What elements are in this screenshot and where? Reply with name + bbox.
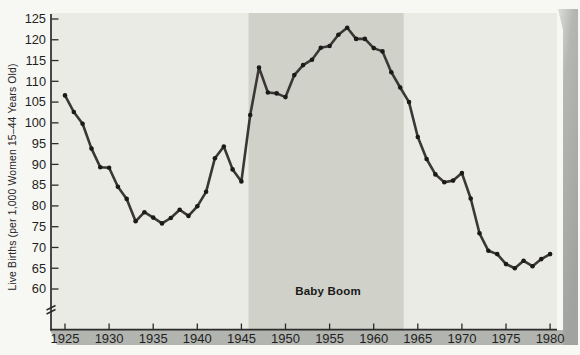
- data-point-1938: [177, 207, 182, 212]
- data-point-1967: [433, 172, 438, 177]
- data-point-1941: [204, 190, 209, 195]
- data-point-1972: [477, 231, 482, 236]
- data-point-1956: [336, 33, 341, 38]
- y-tick-label-100: 100: [25, 115, 46, 130]
- data-point-1976: [513, 266, 518, 271]
- data-point-1935: [151, 215, 156, 220]
- data-point-1929: [98, 165, 103, 170]
- data-point-1932: [124, 197, 129, 202]
- data-point-1962: [389, 70, 394, 75]
- data-point-1970: [460, 171, 465, 176]
- data-point-1928: [89, 146, 94, 151]
- x-tick-label-1965: 1965: [403, 331, 432, 346]
- data-point-1945: [239, 179, 244, 184]
- y-tick-label-95: 95: [32, 136, 46, 151]
- data-point-1966: [424, 157, 429, 162]
- data-point-1931: [116, 185, 121, 190]
- data-point-1973: [486, 249, 491, 254]
- x-tick-label-1960: 1960: [359, 331, 388, 346]
- x-axis-strip: [50, 330, 563, 345]
- data-point-1960: [371, 46, 376, 51]
- data-point-1949: [274, 91, 279, 96]
- x-tick-label-1980: 1980: [536, 331, 565, 346]
- data-point-1963: [398, 85, 403, 90]
- y-tick-label-105: 105: [25, 94, 46, 109]
- data-point-1978: [530, 264, 535, 269]
- data-point-1947: [257, 65, 262, 70]
- data-point-1943: [222, 144, 227, 149]
- fertility-rate-chart: 6065707580859095100105110115120125 19251…: [0, 0, 580, 355]
- y-tick-label-60: 60: [32, 281, 46, 296]
- data-point-1954: [319, 45, 324, 50]
- y-tick-label-65: 65: [32, 261, 46, 276]
- data-point-1957: [345, 25, 350, 30]
- data-point-1934: [142, 210, 147, 215]
- data-point-1959: [363, 37, 368, 42]
- y-tick-label-85: 85: [32, 177, 46, 192]
- data-point-1953: [310, 57, 315, 62]
- y-axis-title: Live Births (per 1,000 Women 15–44 Years…: [6, 61, 20, 293]
- baby-boom-band: [249, 13, 404, 330]
- data-point-1926: [72, 110, 77, 115]
- y-tick-label-110: 110: [26, 74, 46, 89]
- data-point-1952: [301, 63, 306, 68]
- data-point-1979: [539, 257, 544, 262]
- data-point-1958: [354, 37, 359, 42]
- data-point-1980: [548, 252, 553, 257]
- x-tick-label-1940: 1940: [183, 331, 212, 346]
- baby-boom-label: Baby Boom: [288, 285, 368, 298]
- data-point-1946: [248, 113, 253, 118]
- data-point-1955: [327, 44, 332, 49]
- data-point-1974: [495, 252, 500, 257]
- y-tick-label-120: 120: [25, 32, 46, 47]
- data-point-1925: [63, 93, 68, 98]
- data-point-1951: [292, 73, 297, 78]
- data-point-1968: [442, 180, 447, 185]
- y-tick-label-75: 75: [32, 219, 46, 234]
- data-point-1939: [186, 214, 191, 219]
- x-tick-label-1950: 1950: [271, 331, 300, 346]
- data-point-1942: [213, 156, 218, 161]
- figure-page: 6065707580859095100105110115120125 19251…: [0, 0, 580, 355]
- data-point-1937: [169, 216, 174, 221]
- data-point-1950: [283, 95, 288, 100]
- page-edge-shadow: [558, 9, 578, 345]
- data-point-1977: [521, 259, 526, 264]
- y-tick-label-80: 80: [32, 198, 46, 213]
- data-point-1930: [107, 165, 112, 170]
- data-point-1940: [195, 204, 200, 209]
- x-tick-label-1935: 1935: [139, 331, 168, 346]
- data-point-1971: [468, 196, 473, 201]
- x-tick-label-1945: 1945: [227, 331, 256, 346]
- data-point-1961: [380, 49, 385, 54]
- data-point-1965: [416, 135, 421, 140]
- x-tick-label-1970: 1970: [447, 331, 476, 346]
- data-point-1969: [451, 178, 456, 183]
- data-point-1927: [80, 121, 85, 126]
- data-point-1933: [133, 219, 138, 224]
- x-tick-label-1975: 1975: [492, 331, 521, 346]
- x-tick-label-1925: 1925: [51, 331, 80, 346]
- y-tick-label-70: 70: [32, 240, 46, 255]
- y-tick-label-115: 115: [26, 53, 46, 68]
- data-point-1948: [266, 90, 271, 95]
- data-point-1936: [160, 221, 165, 226]
- y-tick-label-125: 125: [25, 11, 46, 26]
- y-tick-label-90: 90: [32, 157, 46, 172]
- data-point-1975: [504, 262, 509, 267]
- x-tick-label-1955: 1955: [315, 331, 344, 346]
- data-point-1964: [407, 100, 412, 105]
- data-point-1944: [230, 167, 235, 172]
- x-tick-label-1930: 1930: [95, 331, 124, 346]
